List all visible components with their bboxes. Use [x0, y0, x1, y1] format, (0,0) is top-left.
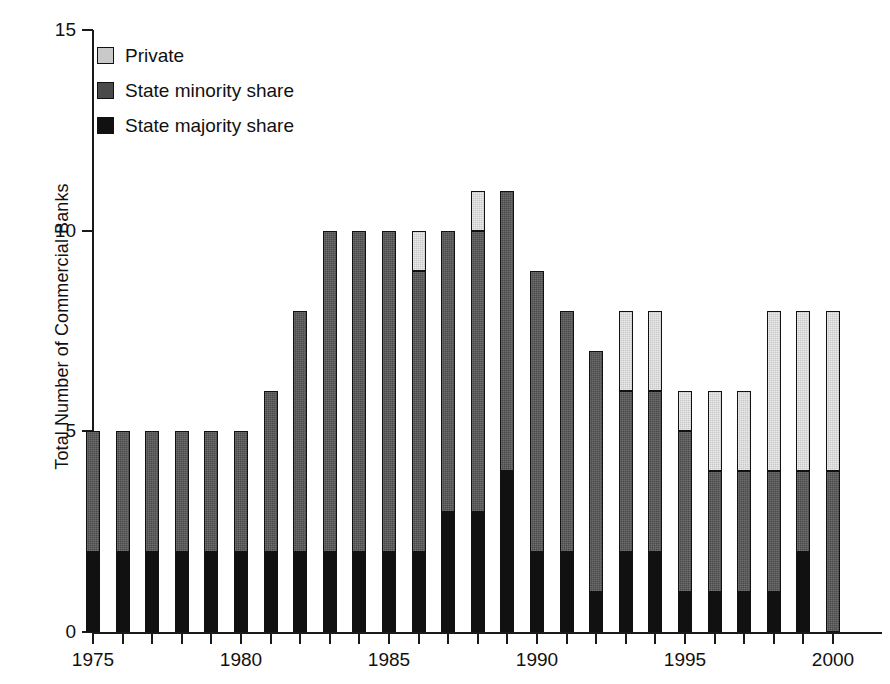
- x-tick-1987: [447, 634, 449, 644]
- legend-label-private: Private: [125, 46, 184, 65]
- bar-1998: [767, 311, 781, 632]
- x-tick-1995: [684, 634, 686, 644]
- x-tick-1996: [714, 634, 716, 644]
- legend-item-private[interactable]: Private: [97, 38, 294, 73]
- x-tick-1983: [329, 634, 331, 644]
- x-tick-label-1985: 1985: [354, 650, 424, 669]
- legend-item-majority[interactable]: State majority share: [97, 108, 294, 143]
- x-tick-1979: [210, 634, 212, 644]
- bar-chart: Total Number of Commercial Banks 051015 …: [0, 0, 890, 684]
- bar-1992: [589, 351, 603, 632]
- x-tick-1976: [122, 634, 124, 644]
- bar-segment-majority-1990: [530, 552, 544, 632]
- bar-segment-minority-1996: [708, 471, 722, 591]
- legend-swatch-minority-icon: [97, 82, 114, 99]
- bar-segment-minority-1989: [500, 191, 514, 472]
- bar-segment-minority-1983: [323, 231, 337, 552]
- bar-segment-majority-1979: [204, 552, 218, 632]
- bar-segment-majority-1997: [737, 592, 751, 632]
- y-tick-10: [82, 230, 93, 232]
- x-tick-1999: [802, 634, 804, 644]
- x-tick-1984: [358, 634, 360, 644]
- bar-segment-minority-1976: [116, 431, 130, 551]
- bar-segment-minority-1986: [412, 271, 426, 552]
- y-tick-label-10: 10: [36, 221, 76, 240]
- bar-segment-minority-2000: [826, 471, 840, 632]
- legend-label-majority: State majority share: [125, 116, 294, 135]
- bar-segment-private-1994: [648, 311, 662, 391]
- bar-2000: [826, 311, 840, 632]
- x-tick-1977: [151, 634, 153, 644]
- bar-segment-minority-1991: [560, 311, 574, 552]
- bar-1975: [86, 431, 100, 632]
- bar-segment-minority-1993: [619, 391, 633, 552]
- x-tick-1982: [299, 634, 301, 644]
- bar-segment-private-1999: [796, 311, 810, 472]
- x-tick-1994: [654, 634, 656, 644]
- bar-segment-private-1988: [471, 191, 485, 231]
- bar-segment-minority-1987: [441, 231, 455, 512]
- bar-1994: [648, 311, 662, 632]
- x-tick-1992: [595, 634, 597, 644]
- bar-segment-private-1993: [619, 311, 633, 391]
- bar-segment-minority-1999: [796, 471, 810, 551]
- bar-segment-minority-1979: [204, 431, 218, 551]
- bar-segment-minority-1995: [678, 431, 692, 592]
- bar-segment-majority-1988: [471, 512, 485, 632]
- y-axis-title: Total Number of Commercial Banks: [52, 27, 73, 627]
- legend-item-minority[interactable]: State minority share: [97, 73, 294, 108]
- bar-1978: [175, 431, 189, 632]
- bar-segment-majority-1978: [175, 552, 189, 632]
- bar-1981: [264, 391, 278, 632]
- bar-segment-majority-1986: [412, 552, 426, 632]
- x-tick-1993: [625, 634, 627, 644]
- bar-segment-minority-1994: [648, 391, 662, 552]
- bar-segment-majority-1981: [264, 552, 278, 632]
- bar-1987: [441, 231, 455, 632]
- bar-1988: [471, 191, 485, 632]
- x-tick-label-1975: 1975: [58, 650, 128, 669]
- bar-segment-majority-1992: [589, 592, 603, 632]
- bar-segment-majority-1975: [86, 552, 100, 632]
- x-tick-label-1990: 1990: [502, 650, 572, 669]
- bar-1995: [678, 391, 692, 632]
- bar-1989: [500, 191, 514, 632]
- bar-1985: [382, 231, 396, 632]
- bar-segment-majority-1989: [500, 471, 514, 632]
- bar-1983: [323, 231, 337, 632]
- bar-segment-minority-1981: [264, 391, 278, 552]
- y-tick-15: [82, 29, 93, 31]
- x-tick-1980: [240, 634, 242, 644]
- bar-segment-private-2000: [826, 311, 840, 472]
- bar-segment-minority-1985: [382, 231, 396, 552]
- bar-segment-majority-1983: [323, 552, 337, 632]
- chart-legend: PrivateState minority shareState majorit…: [97, 38, 294, 143]
- bar-segment-private-1997: [737, 391, 751, 471]
- bar-segment-minority-1984: [352, 231, 366, 552]
- bar-segment-majority-1977: [145, 552, 159, 632]
- bar-1999: [796, 311, 810, 632]
- bar-segment-minority-1982: [293, 311, 307, 552]
- bar-1980: [234, 431, 248, 632]
- x-tick-1998: [773, 634, 775, 644]
- bar-segment-private-1986: [412, 231, 426, 271]
- x-tick-1986: [418, 634, 420, 644]
- bar-segment-private-1996: [708, 391, 722, 471]
- bar-1993: [619, 311, 633, 632]
- bar-segment-minority-1992: [589, 351, 603, 592]
- x-tick-1991: [566, 634, 568, 644]
- x-tick-1975: [92, 634, 94, 644]
- bar-segment-private-1995: [678, 391, 692, 431]
- bar-1991: [560, 311, 574, 632]
- legend-swatch-private-icon: [97, 47, 114, 64]
- x-tick-1981: [270, 634, 272, 644]
- bar-segment-majority-1991: [560, 552, 574, 632]
- x-tick-label-1995: 1995: [650, 650, 720, 669]
- bar-1990: [530, 271, 544, 632]
- bar-segment-majority-1993: [619, 552, 633, 632]
- y-tick-label-5: 5: [36, 421, 76, 440]
- bar-segment-majority-1998: [767, 592, 781, 632]
- bar-segment-minority-1977: [145, 431, 159, 551]
- bar-segment-minority-1990: [530, 271, 544, 552]
- bar-segment-majority-1980: [234, 552, 248, 632]
